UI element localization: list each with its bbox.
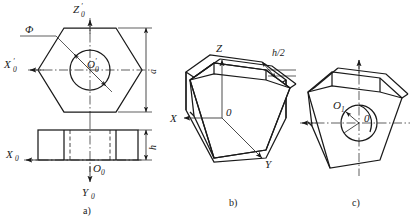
label-y-zero-front: Y [82,186,90,198]
label-x-zero-front: X [5,148,14,160]
hex-slab-line-top-c [314,68,338,88]
label-origin-1-c: O [333,99,341,111]
label-dim-h: h [147,145,158,150]
label-origin-c: 0 [364,112,370,124]
label-axis-z-b: Z [216,42,223,54]
view-c-axonometric-with-hole: O 1 0 c) [300,60,410,209]
label-axis-y-b: Y [265,158,273,170]
label-origin-prime-zero: O [87,58,95,70]
hex-slab-edge-c [338,68,408,94]
caption-a: a) [83,205,91,217]
hex-inner-top-c [308,86,402,98]
technical-drawing-page: Z ′ 0 X ′ 0 O ′ 0 Φ a [0,0,411,220]
label-y-zero-front-sub: 0 [91,192,95,201]
label-z-prime-zero: Z [73,3,80,15]
front-view-outline [38,130,138,160]
diameter-leader-extension-2 [106,86,112,92]
bore-inner-line-c [344,123,359,133]
label-x-prime-zero: X [3,58,12,70]
label-origin-sub-zero: 0 [95,65,99,74]
label-origin-zero-front: O [93,162,101,174]
view-a-front-rectangle: h X 0 O 0 Y 0 a) [5,120,158,217]
label-z-sub-zero: 0 [81,10,85,19]
view-b-axonometric: Z X Y 0 h/2 b) [169,42,296,209]
hex-slab-right-c [402,94,408,98]
label-dim-a: a [147,69,158,74]
label-origin-1-sub-c: 1 [341,105,345,114]
label-dim-half-height-b: h/2 [272,47,285,58]
caption-c: c) [352,197,360,209]
label-diameter-phi: Φ [25,23,34,35]
engineering-drawing-canvas: Z ′ 0 X ′ 0 O ′ 0 Φ a [0,0,411,220]
label-x-sub-zero: 0 [13,65,17,74]
caption-b: b) [229,197,237,209]
label-x-zero-front-sub: 0 [15,154,19,163]
label-origin-b: 0 [226,106,232,118]
label-axis-x-b: X [169,112,178,124]
diameter-leader-extension [56,36,74,54]
label-origin-zero-front-sub: 0 [101,168,105,177]
hex-slab-right-b [290,84,296,88]
radius-leader-c [346,112,359,123]
view-a-top-hexagon: Z ′ 0 X ′ 0 O ′ 0 Φ a [3,2,158,122]
